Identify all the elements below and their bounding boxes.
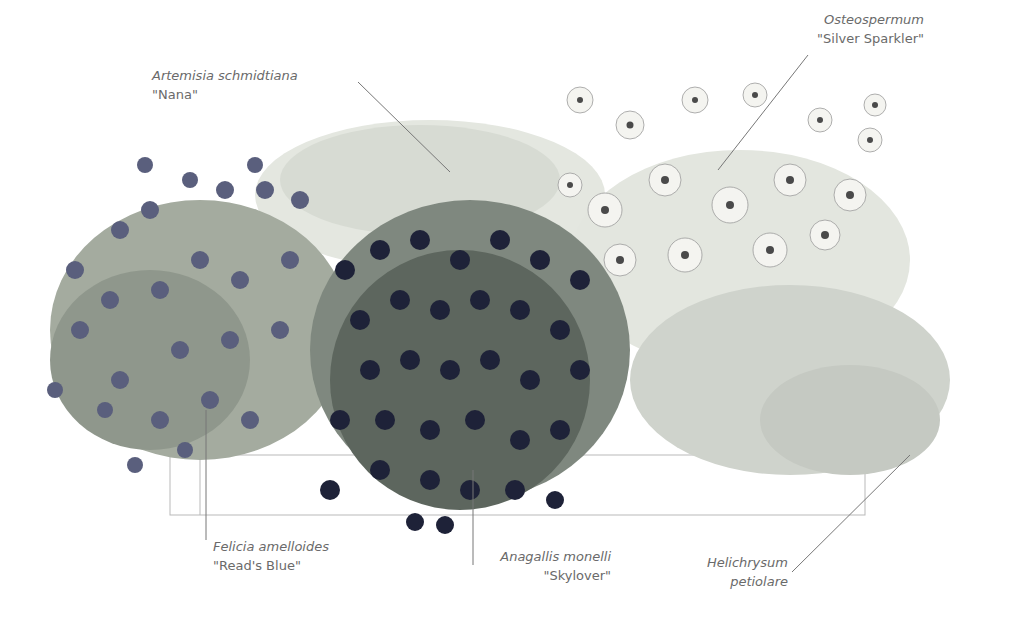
felicia-plant	[50, 200, 350, 460]
label-cultivar: "Skylover"	[481, 566, 611, 585]
label-cultivar: "Nana"	[152, 85, 298, 104]
label-latin: Artemisia schmidtiana	[152, 66, 298, 85]
label-latin: Felicia amelloides	[213, 537, 329, 556]
label-cultivar: "Silver Sparkler"	[800, 29, 924, 48]
label-cultivar: petiolare	[700, 572, 788, 591]
label-osteospermum: Osteospermum "Silver Sparkler"	[800, 10, 924, 48]
label-latin: Osteospermum	[800, 10, 924, 29]
label-helichrysum: Helichrysum petiolare	[700, 553, 788, 591]
label-cultivar: "Read's Blue"	[213, 556, 329, 575]
anagallis-plant	[310, 200, 630, 510]
label-latin: Anagallis monelli	[481, 547, 611, 566]
label-felicia: Felicia amelloides "Read's Blue"	[213, 537, 329, 575]
label-latin: Helichrysum	[700, 553, 788, 572]
label-artemisia: Artemisia schmidtiana "Nana"	[152, 66, 298, 104]
label-anagallis: Anagallis monelli "Skylover"	[481, 547, 611, 585]
helichrysum-plant	[630, 285, 950, 475]
